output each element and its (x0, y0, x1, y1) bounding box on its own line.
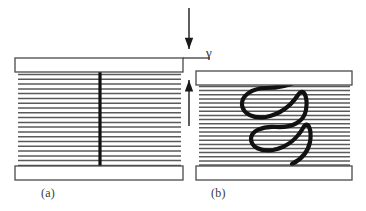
panel-a-caption: (a) (41, 186, 55, 201)
panel-b-caption: (b) (211, 186, 226, 201)
figure-root: γ (a) (b) (0, 0, 366, 211)
shear-strain-symbol-label: γ (206, 45, 212, 61)
panel-b-bottom-plate (196, 166, 352, 180)
panel-b-top-plate (196, 71, 352, 85)
shear-deformation-diagram (0, 0, 366, 211)
panel-a-top-plate (15, 58, 183, 72)
panel-a-bottom-plate (15, 166, 183, 180)
